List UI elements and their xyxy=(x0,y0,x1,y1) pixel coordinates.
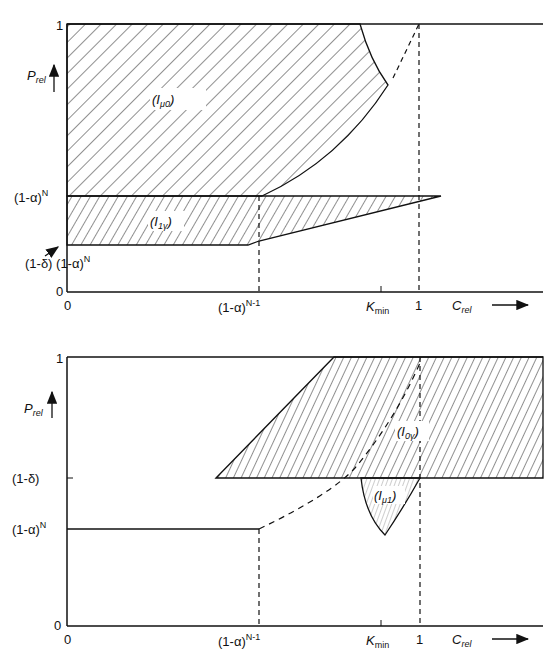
y-tick-1: 1 xyxy=(56,18,63,33)
region-i-mu0 xyxy=(67,24,388,196)
x-tick-0: 0 xyxy=(64,298,71,313)
x-tick-kmin: Kmin xyxy=(366,299,389,316)
top-figure: 1 0 (1-α)N (1-δ) (1-α)N Prel 0 (1-α)N-1 … xyxy=(14,18,543,316)
x-tick-1: 1 xyxy=(416,632,423,647)
region-i-0gamma xyxy=(216,357,543,478)
x-tick-0: 0 xyxy=(64,632,71,647)
y-tick-delta: (1-δ) xyxy=(12,471,39,486)
y-axis-label: Prel xyxy=(27,68,47,85)
x-tick-kmin: Kmin xyxy=(366,633,389,650)
y-tick-delta-alpha-n: (1-δ) (1-α)N xyxy=(25,254,90,271)
y-axis-label: Prel xyxy=(24,401,44,418)
y-tick-0: 0 xyxy=(54,618,61,633)
x-axis-label: Crel xyxy=(452,632,472,649)
y-tick-alpha-n: (1-α)N xyxy=(14,188,48,205)
diagram-canvas: 1 0 (1-α)N (1-δ) (1-α)N Prel 0 (1-α)N-1 … xyxy=(0,0,560,666)
x-axis-label: Crel xyxy=(452,298,472,315)
dashed-diagonal xyxy=(393,24,419,78)
region-i-1gamma xyxy=(67,196,441,245)
pointer-arrow-icon xyxy=(45,247,58,256)
x-tick-1: 1 xyxy=(415,298,422,313)
x-tick-alpha-n1: (1-α)N-1 xyxy=(218,632,260,649)
y-tick-alpha-n: (1-α)N xyxy=(12,520,46,537)
x-tick-alpha-n1: (1-α)N-1 xyxy=(218,298,260,315)
y-tick-1: 1 xyxy=(56,351,63,366)
y-tick-0: 0 xyxy=(56,284,63,299)
bottom-figure: 1 (1-δ) (1-α)N 0 Prel 0 (1-α)N-1 Kmin 1 … xyxy=(12,351,543,650)
